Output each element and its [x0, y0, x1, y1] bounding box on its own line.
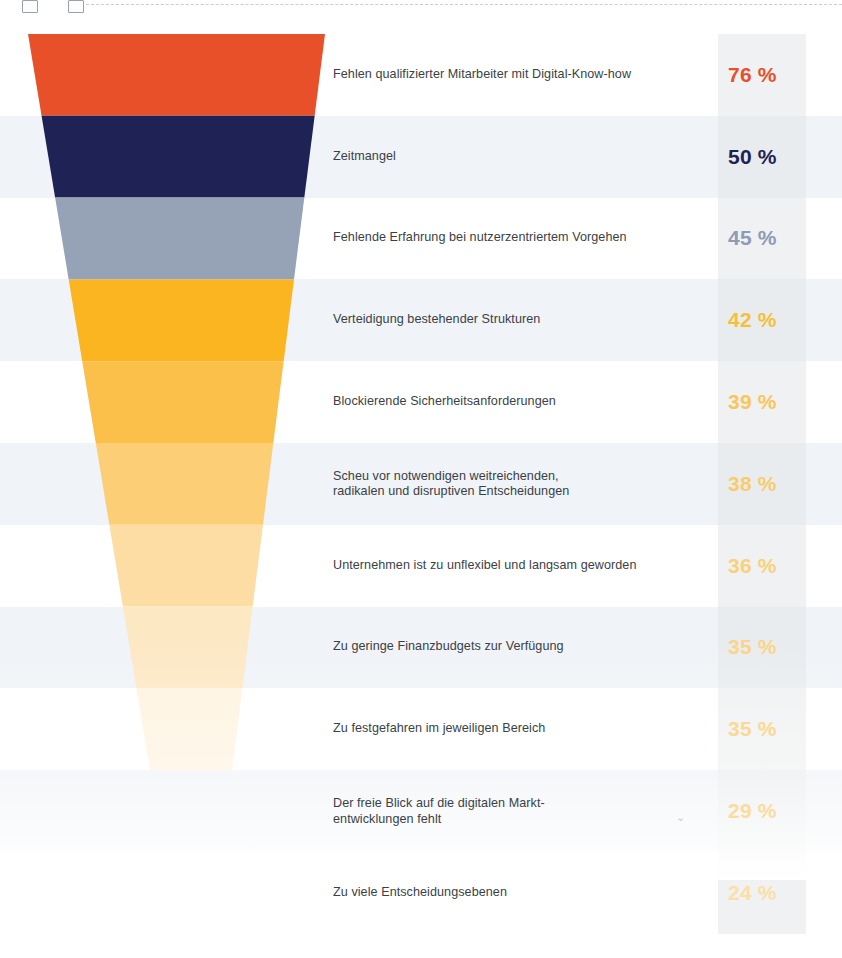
funnel-row[interactable]: Zu viele Entscheidungsebenen24 % — [0, 852, 842, 934]
funnel-row-label: Zu viele Entscheidungsebenen — [333, 885, 703, 901]
funnel-row[interactable]: Scheu vor notwendigen weitreichenden, ra… — [0, 443, 842, 525]
funnel-row[interactable]: Verteidigung bestehender Strukturen42 % — [0, 279, 842, 361]
funnel-row[interactable]: Blockierende Sicherheitsanforderungen39 … — [0, 361, 842, 443]
funnel-row-value: 42 % — [718, 308, 806, 332]
funnel-row[interactable]: Fehlen qualifizierter Mitarbeiter mit Di… — [0, 34, 842, 116]
funnel-row-label: Zu geringe Finanzbudgets zur Verfügung — [333, 640, 703, 656]
funnel-row-value: 29 % — [718, 799, 806, 823]
funnel-row-label: Zu festgefahren im jeweiligen Bereich — [333, 722, 703, 738]
funnel-row-value: 45 % — [718, 226, 806, 250]
funnel-row-label: Blockierende Sicherheitsanforderungen — [333, 394, 703, 410]
funnel-row-label: Scheu vor notwendigen weitreichenden, ra… — [333, 468, 703, 499]
funnel-row[interactable]: Fehlende Erfahrung bei nutzerzentriertem… — [0, 198, 842, 280]
funnel-chart: Fehlen qualifizierter Mitarbeiter mit Di… — [0, 0, 842, 958]
funnel-row[interactable]: Zu festgefahren im jeweiligen Bereich35 … — [0, 688, 842, 770]
funnel-row-label: Verteidigung bestehender Strukturen — [333, 313, 703, 329]
funnel-row-value: 35 % — [718, 635, 806, 659]
funnel-row[interactable]: Zeitmangel50 % — [0, 116, 842, 198]
funnel-row-value: 39 % — [718, 390, 806, 414]
funnel-row-label: Zeitmangel — [333, 149, 703, 165]
funnel-row-label: Der freie Blick auf die digitalen Markt-… — [333, 796, 703, 827]
funnel-row-label: Unternehmen ist zu unflexibel und langsa… — [333, 558, 703, 574]
funnel-row-value: 76 % — [718, 63, 806, 87]
funnel-row-label: Fehlende Erfahrung bei nutzerzentriertem… — [333, 231, 703, 247]
funnel-row-value: 35 % — [718, 717, 806, 741]
funnel-row-value: 36 % — [718, 554, 806, 578]
funnel-row-value: 50 % — [718, 145, 806, 169]
funnel-row[interactable]: Zu geringe Finanzbudgets zur Verfügung35… — [0, 607, 842, 689]
funnel-row[interactable]: Der freie Blick auf die digitalen Markt-… — [0, 770, 842, 852]
funnel-row[interactable]: Unternehmen ist zu unflexibel und langsa… — [0, 525, 842, 607]
funnel-row-value: 38 % — [718, 472, 806, 496]
funnel-row-label: Fehlen qualifizierter Mitarbeiter mit Di… — [333, 67, 703, 83]
funnel-row-value: 24 % — [718, 881, 806, 905]
